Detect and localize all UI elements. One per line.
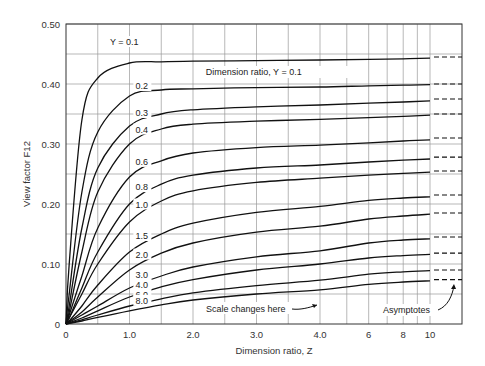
curve-label: 0.2 (135, 81, 148, 91)
x-tick-label: 6 (366, 329, 371, 340)
y-tick-label: 0 (55, 319, 60, 330)
x-tick-label: 0 (63, 329, 68, 340)
curve-label: Y = 0.1 (110, 37, 139, 47)
curve-label: 0.3 (135, 108, 148, 118)
curve-label: 0.6 (135, 157, 148, 167)
x-tick-label: 2.0 (186, 329, 199, 340)
x-tick-label: 1.0 (123, 329, 136, 340)
curve-label: 0.4 (135, 125, 148, 135)
curve-y-6.0 (66, 271, 430, 324)
curve-y-0.3 (66, 101, 430, 324)
y-tick-label: 0.30 (42, 139, 61, 150)
x-tick-label: 10 (425, 329, 436, 340)
annotation-scale-changes: Scale changes here (206, 304, 286, 314)
annotation-asymptotes: Asymptotes (383, 305, 431, 315)
x-axis-title: Dimension ratio, Z (235, 345, 312, 356)
curve-label: 1.0 (135, 200, 148, 210)
y-tick-label: 0.40 (42, 79, 61, 90)
curve-label: 1.5 (135, 231, 148, 241)
x-tick-label: 4.0 (313, 329, 326, 340)
arrowhead-icon (451, 284, 456, 289)
asymptote-dashes (434, 57, 462, 280)
view-factor-chart: 00.100.200.300.400.5001.02.03.04.06810Di… (0, 0, 485, 366)
annotations: Dimension ratio, Y = 0.1Scale changes he… (202, 66, 456, 316)
y-tick-label: 0.50 (42, 19, 61, 30)
arrow-asymptotes (438, 286, 454, 310)
y-tick-label: 0.20 (42, 199, 61, 210)
curve-label: 4.0 (135, 280, 148, 290)
curves (66, 58, 430, 324)
curve-label: 3.0 (135, 270, 148, 280)
y-tick-label: 0.10 (42, 259, 61, 270)
annotation-dimension-ratio: Dimension ratio, Y = 0.1 (206, 67, 302, 77)
y-axis-title: View factor F12 (21, 141, 32, 207)
chart-container: 00.100.200.300.400.5001.02.03.04.06810Di… (0, 0, 485, 366)
curve-label: 2.0 (135, 250, 148, 260)
curve-label: 8.0 (135, 296, 148, 306)
x-tick-label: 8 (401, 329, 406, 340)
x-tick-label: 3.0 (250, 329, 263, 340)
curve-label: 0.8 (135, 182, 148, 192)
